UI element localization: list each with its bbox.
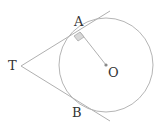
label-B: B (72, 106, 82, 119)
label-T: T (8, 59, 17, 72)
right-angle-marker (74, 32, 84, 41)
tangent-line-TB (21, 66, 110, 121)
label-A: A (74, 15, 83, 28)
label-O: O (108, 66, 119, 79)
diagram: A T O B (0, 0, 166, 129)
tangent-line-TA (21, 11, 110, 66)
